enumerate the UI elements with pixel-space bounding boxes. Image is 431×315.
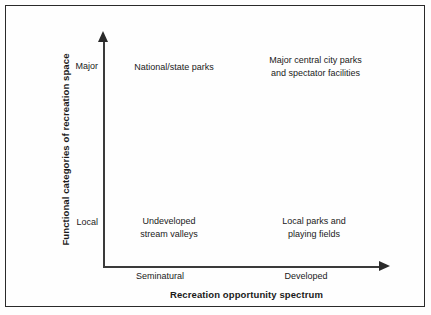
y-axis-arrowhead-icon [98,31,108,42]
figure-canvas: Functional categories of recreation spac… [0,0,431,315]
x-tick-label-developed: Developed [251,271,361,281]
x-tick-label-seminatural: Seminatural [105,271,215,281]
cell-label-top-right: Major central city parks and spectator f… [249,54,382,79]
y-axis-line [103,40,105,268]
cell-label-bottom-right-line2: playing fields [254,228,374,241]
cell-label-top-left-line1: National/state parks [114,61,234,74]
x-axis-title: Recreation opportunity spectrum [104,289,389,300]
cell-label-bottom-right-line1: Local parks and [254,215,374,228]
y-tick-label-major: Major [38,61,98,71]
cell-label-bottom-left-line1: Undeveloped [109,215,229,228]
x-axis-line [103,266,382,268]
cell-label-top-right-line2: and spectator facilities [249,67,382,80]
y-tick-label-local: Local [38,217,98,227]
x-axis-arrowhead-icon [379,261,390,271]
cell-label-top-right-line1: Major central city parks [249,54,382,67]
figure-border: Functional categories of recreation spac… [5,5,425,307]
cell-label-bottom-right: Local parks and playing fields [254,215,374,240]
cell-label-bottom-left: Undeveloped stream valleys [109,215,229,240]
cell-label-top-left: National/state parks [114,61,234,74]
cell-label-bottom-left-line2: stream valleys [109,228,229,241]
